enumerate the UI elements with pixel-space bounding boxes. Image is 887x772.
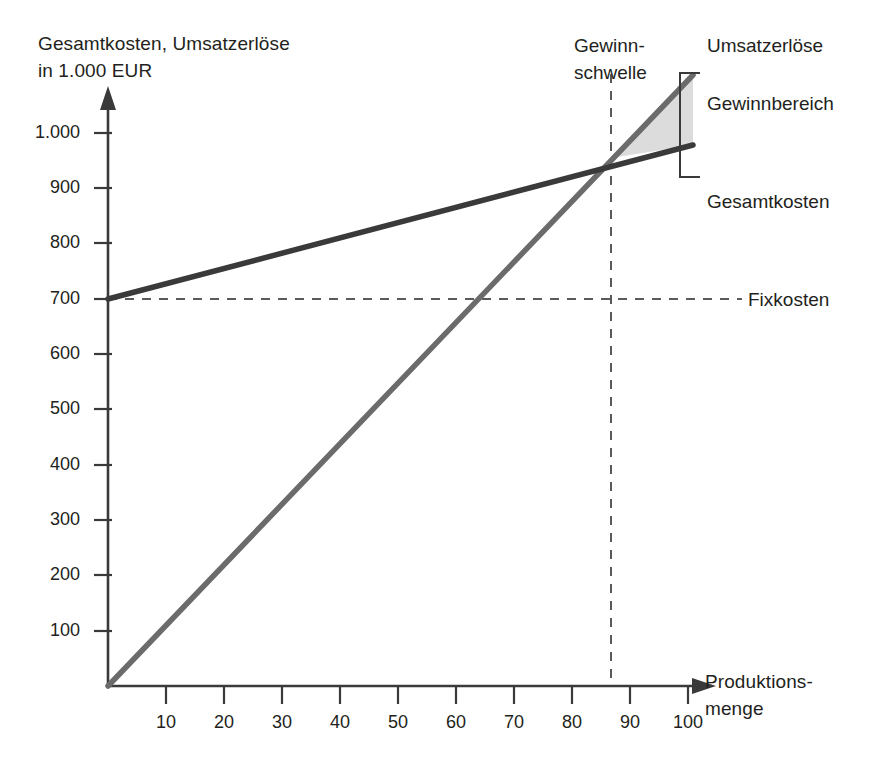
y-tick-label-200: 200 [20, 564, 80, 585]
annotation-revenue: Umsatzerlöse [707, 32, 823, 59]
x-tick-label-70: 70 [484, 712, 544, 733]
chart-page: 1.000 900 800 700 600 500 400 300 200 10… [0, 0, 887, 772]
x-tick-label-40: 40 [310, 712, 370, 733]
x-tick-label-60: 60 [426, 712, 486, 733]
y-tick-label-500: 500 [20, 398, 80, 419]
y-tick-label-600: 600 [20, 343, 80, 364]
y-tick-label-800: 800 [20, 232, 80, 253]
x-tick-label-30: 30 [252, 712, 312, 733]
x-axis-title: Produktions- menge [705, 668, 813, 722]
x-tick-label-10: 10 [136, 712, 196, 733]
y-axis-arrowhead [100, 86, 116, 110]
x-tick-label-50: 50 [368, 712, 428, 733]
x-tick-label-80: 80 [542, 712, 602, 733]
y-tick-label-1000: 1.000 [20, 122, 80, 143]
x-tick-label-20: 20 [194, 712, 254, 733]
y-axis-title: Gesamtkosten, Umsatzerlöse in 1.000 EUR [38, 30, 290, 84]
y-axis-ticks [94, 133, 112, 631]
annotation-break-even: Gewinn- schwelle [574, 32, 647, 86]
total-cost-line [108, 145, 693, 299]
y-tick-label-100: 100 [20, 620, 80, 641]
y-tick-label-400: 400 [20, 454, 80, 475]
y-tick-label-900: 900 [20, 177, 80, 198]
y-tick-label-700: 700 [20, 288, 80, 309]
y-tick-label-300: 300 [20, 509, 80, 530]
x-axis-ticks [166, 686, 688, 704]
annotation-profit-zone: Gewinnbereich [707, 90, 834, 117]
x-tick-label-90: 90 [600, 712, 660, 733]
annotation-total-costs: Gesamtkosten [707, 188, 830, 215]
annotation-fixed-costs: Fixkosten [748, 286, 829, 313]
